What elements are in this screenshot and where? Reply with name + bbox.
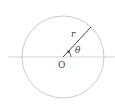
origin-label: O — [58, 60, 65, 70]
radius-label: r — [71, 29, 76, 39]
angle-label: θ — [75, 45, 81, 55]
polar-diagram: r θ O — [0, 0, 115, 108]
